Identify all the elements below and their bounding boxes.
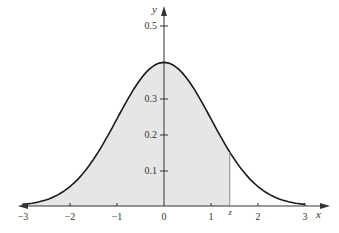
x-tick-label: −3 [18,211,29,222]
x-tick-label: 2 [256,211,261,222]
x-tick-label: −1 [112,211,123,222]
y-tick-label: 0.3 [145,93,158,104]
x-tick-label: −2 [65,211,76,222]
y-tick-label: 0.5 [145,20,158,31]
normal-curve-chart: −3 −2 −1 0 1 z 2 3 x 0.1 0.2 0.3 0.5 y [0,0,339,233]
x-tick-label: 3 [303,211,308,222]
y-axis-label: y [151,3,157,15]
y-tick-label: 0.1 [145,165,158,176]
y-axis-arrow-icon [161,6,167,16]
x-axis-label: x [315,208,321,220]
x-tick-label: 1 [209,211,214,222]
x-tick-label: 0 [162,211,167,222]
z-label: z [227,208,232,217]
shaded-area [23,62,230,206]
y-tick-label: 0.2 [145,129,158,140]
x-axis-right-arrow-icon [320,203,330,209]
